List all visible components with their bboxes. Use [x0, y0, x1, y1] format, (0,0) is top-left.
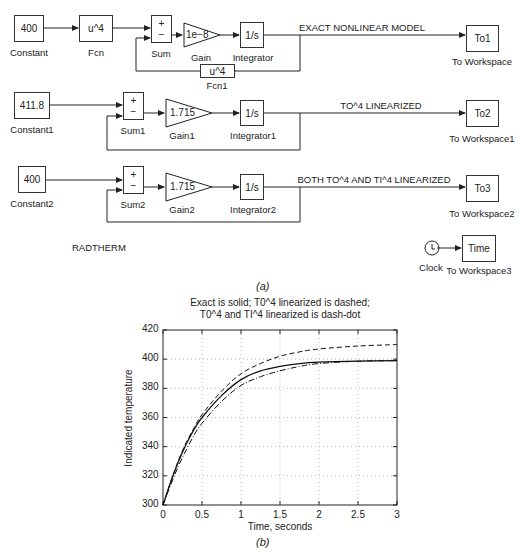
y-tick-label: 420 [142, 323, 159, 334]
y-tick-label: 400 [142, 352, 159, 363]
y-tick-label: 380 [142, 381, 159, 392]
x-tick-label: 3 [394, 509, 400, 520]
x-tick-label: 1 [238, 509, 244, 520]
x-tick-label: 1.5 [273, 509, 287, 520]
y-tick-label: 320 [142, 469, 159, 480]
x-axis-label: Time, seconds [248, 521, 313, 532]
chart-plot-area [0, 0, 521, 553]
chart-caption: (b) [256, 536, 269, 548]
x-tick-label: 2.5 [351, 509, 365, 520]
y-tick-label: 360 [142, 411, 159, 422]
y-tick-label: 340 [142, 440, 159, 451]
y-axis-label: Indicated temperature [123, 369, 134, 466]
x-tick-label: 2 [316, 509, 322, 520]
x-tick-label: 0 [160, 509, 166, 520]
x-tick-label: 0.5 [195, 509, 209, 520]
series-line-dashed [163, 345, 397, 505]
y-tick-label: 300 [142, 498, 159, 509]
